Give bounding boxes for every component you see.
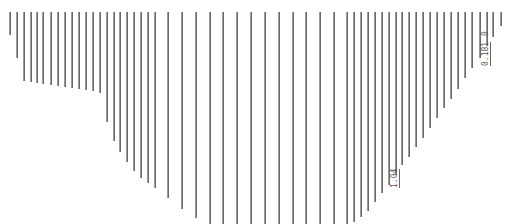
ordinate-line <box>381 12 383 193</box>
ordinate-line <box>305 12 307 224</box>
ordinate-line <box>450 12 452 99</box>
ordinate-line <box>278 12 280 224</box>
ordinate-line <box>388 12 390 185</box>
ordinate-line <box>319 12 321 224</box>
ordinate-line <box>9 12 11 35</box>
ordinate-line <box>374 12 376 202</box>
ordinate-line <box>333 12 335 224</box>
value-label: 0.181 <box>482 42 491 66</box>
ordinate-line <box>429 12 431 128</box>
ordinate-line <box>106 12 108 122</box>
ordinate-line <box>147 12 149 183</box>
ordinate-line <box>16 12 18 58</box>
value-label: 1.04 <box>391 169 400 188</box>
ordinate-line <box>126 12 128 162</box>
ordinate-line <box>30 12 32 82</box>
ordinate-line <box>119 12 121 152</box>
ordinate-line <box>500 12 502 26</box>
ordinate-line <box>360 12 362 217</box>
ordinate-line <box>36 12 38 83</box>
ordinate-line <box>140 12 142 178</box>
ordinate-line <box>367 12 369 211</box>
ordinate-line <box>292 12 294 224</box>
ordinate-line <box>408 12 410 157</box>
ordinate-line <box>422 12 424 138</box>
ordinate-line <box>42 12 44 84</box>
value-label: 0 <box>482 31 490 36</box>
ordinate-line <box>443 12 445 108</box>
ordinate-line <box>64 12 66 87</box>
ordinate-line <box>167 12 169 198</box>
ordinate-line <box>181 12 183 209</box>
ordinate-line <box>436 12 438 118</box>
ordinate-line <box>154 12 156 188</box>
ordinate-profile-diagram: 1.040.1810 <box>0 0 517 224</box>
ordinate-line <box>222 12 224 224</box>
ordinate-line <box>71 12 73 88</box>
ordinate-line <box>471 12 473 68</box>
ordinate-line <box>78 12 80 89</box>
ordinate-line <box>250 12 252 224</box>
ordinate-line <box>57 12 59 86</box>
ordinate-line <box>113 12 115 141</box>
ordinate-line <box>99 12 101 93</box>
ordinate-line <box>353 12 355 222</box>
ordinate-line <box>23 12 25 81</box>
ordinate-line <box>486 12 488 46</box>
ordinate-line <box>236 12 238 224</box>
ordinate-line <box>195 12 197 218</box>
ordinate-line <box>209 12 211 224</box>
ordinate-line <box>492 12 494 37</box>
ordinate-line <box>85 12 87 90</box>
ordinate-line <box>92 12 94 91</box>
ordinate-line <box>395 12 397 175</box>
ordinate-line <box>50 12 52 85</box>
ordinate-line <box>133 12 135 171</box>
ordinate-line <box>457 12 459 89</box>
ordinate-line <box>464 12 466 78</box>
ordinate-line <box>264 12 266 224</box>
ordinate-line <box>401 12 403 165</box>
ordinate-line <box>415 12 417 147</box>
ordinate-line <box>346 12 348 224</box>
